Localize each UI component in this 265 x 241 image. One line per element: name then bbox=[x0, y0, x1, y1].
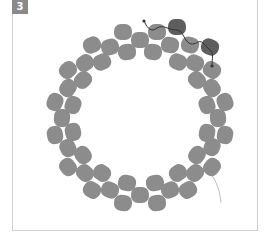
thread-end-dot bbox=[210, 64, 213, 67]
thread-start-dot bbox=[142, 19, 145, 22]
bead bbox=[143, 43, 162, 61]
bead bbox=[148, 24, 166, 40]
bead bbox=[167, 51, 189, 72]
bead bbox=[131, 187, 149, 203]
bead-ring-diagram bbox=[0, 0, 265, 241]
bead bbox=[114, 24, 132, 40]
bead-highlighted bbox=[199, 36, 221, 57]
bead bbox=[80, 179, 104, 202]
bead bbox=[80, 34, 103, 56]
bead bbox=[176, 179, 200, 202]
bead bbox=[90, 161, 114, 184]
bead bbox=[179, 35, 201, 55]
bead bbox=[117, 43, 136, 61]
bead bbox=[113, 194, 132, 212]
bead-highlighted bbox=[168, 19, 186, 35]
bead bbox=[147, 194, 166, 212]
bead bbox=[131, 32, 149, 48]
bead bbox=[183, 161, 207, 185]
